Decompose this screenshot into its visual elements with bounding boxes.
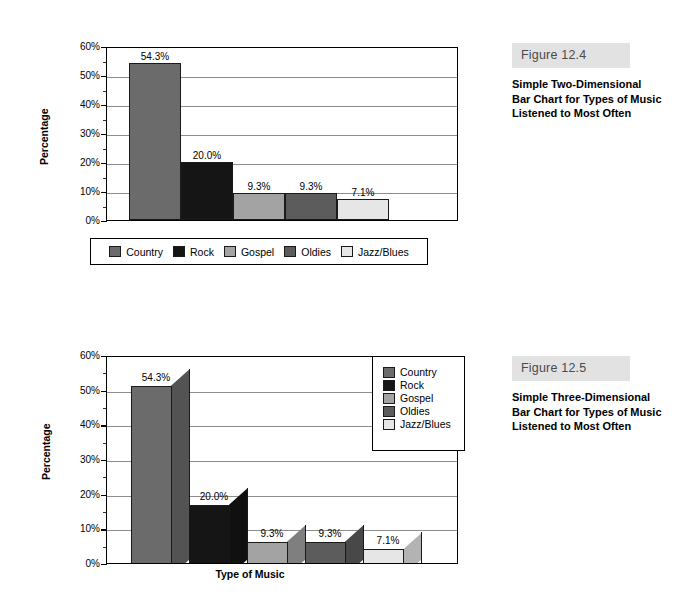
chart-12-4-legend-swatch-icon	[109, 246, 121, 257]
chart-12-5-legend-item[interactable]: Country	[383, 366, 452, 378]
chart-12-5-ytick-label: 10%	[62, 523, 100, 534]
chart-12-4-legend-label: Country	[126, 246, 163, 258]
chart-12-4-legend-swatch-icon	[173, 246, 185, 257]
chart-12-4-ytick-label: 10%	[62, 186, 100, 197]
chart-12-4-legend-item[interactable]: Country	[109, 246, 163, 258]
chart-12-5-legend-swatch-icon	[383, 419, 395, 430]
chart-12-4-bar	[285, 193, 337, 220]
chart-12-5-ytick-label: 40%	[62, 419, 100, 430]
chart-12-4-bar	[233, 193, 285, 220]
figure-12-5-caption: Simple Three-Dimensional Bar Chart for T…	[512, 390, 662, 434]
chart-12-4-legend-label: Oldies	[301, 246, 331, 258]
chart-12-4-bar-value-label: 7.1%	[333, 187, 393, 198]
chart-12-4-legend-item[interactable]: Rock	[173, 246, 214, 258]
chart-12-5-ytick-label: 20%	[62, 489, 100, 500]
chart-12-5-legend-item[interactable]: Oldies	[383, 405, 452, 417]
chart-12-5-legend: CountryRockGospelOldiesJazz/Blues	[372, 356, 465, 451]
chart-12-5-legend-label: Gospel	[400, 392, 433, 404]
chart-12-4-plot-area: 54.3%20.0%9.3%9.3%7.1%	[106, 47, 458, 221]
figure-12-5-caption-column: Figure 12.5 Simple Three-Dimensional Bar…	[512, 356, 662, 434]
chart-12-4-ytick-label: 50%	[62, 70, 100, 81]
chart-12-4-legend-swatch-icon	[341, 246, 353, 257]
chart-12-5-bar-3d-front	[247, 542, 288, 564]
chart-12-5-bar-3d-front	[189, 505, 230, 564]
chart-12-5-legend-swatch-icon	[383, 380, 395, 391]
chart-12-5-bar-3d-side-outline	[171, 369, 190, 564]
figure-12-5-block: Percentage 0%10%20%30%40%50%60% 54.3%20.…	[0, 315, 678, 604]
figure-12-4-block: Percentage 0%10%20%30%40%50%60% 54.3%20.…	[0, 0, 678, 300]
figure-12-4-caption: Simple Two-Dimensional Bar Chart for Typ…	[512, 77, 662, 121]
chart-12-5-bar-value-label: 9.3%	[243, 528, 301, 539]
chart-12-5-bar-value-label: 54.3%	[127, 372, 185, 383]
chart-12-4-legend-item[interactable]: Gospel	[224, 246, 274, 258]
chart-12-5-ytick-label: 30%	[62, 454, 100, 465]
chart-12-5-bar-value-label: 7.1%	[359, 535, 417, 546]
chart-12-4-bar	[129, 63, 181, 220]
chart-12-4-ytick-mark	[101, 221, 107, 222]
chart-12-5-legend-label: Oldies	[400, 405, 430, 417]
chart-12-4-bar-value-label: 9.3%	[281, 181, 341, 192]
figure-12-4-caption-column: Figure 12.4 Simple Two-Dimensional Bar C…	[512, 43, 662, 121]
chart-12-4-y-axis-label: Percentage	[38, 108, 50, 165]
chart-12-5-x-axis-label: Type of Music	[160, 568, 340, 580]
chart-12-4-ytick-label: 20%	[62, 157, 100, 168]
chart-12-5-legend-item[interactable]: Rock	[383, 379, 452, 391]
chart-12-4-ytick-label: 0%	[62, 215, 100, 226]
chart-12-4-legend-label: Jazz/Blues	[358, 246, 409, 258]
chart-12-5-ytick-mark	[101, 564, 107, 565]
chart-12-5-legend-label: Jazz/Blues	[400, 418, 451, 430]
chart-12-5-legend-swatch-icon	[383, 367, 395, 378]
figure-12-4-banner: Figure 12.4	[512, 43, 630, 68]
chart-12-4-legend-swatch-icon	[224, 246, 236, 257]
chart-12-4-bar	[181, 162, 233, 220]
chart-12-5-ytick-label: 50%	[62, 385, 100, 396]
chart-12-4-legend-label: Gospel	[241, 246, 274, 258]
chart-12-5-bar-value-label: 9.3%	[301, 528, 359, 539]
chart-12-5-bar-3d-front	[363, 549, 404, 564]
chart-12-4-legend-item[interactable]: Jazz/Blues	[341, 246, 409, 258]
chart-12-4-bar	[337, 199, 389, 220]
chart-12-5-ytick-label: 0%	[62, 558, 100, 569]
chart-12-5-ytick-label: 60%	[62, 350, 100, 361]
chart-12-5-legend-swatch-icon	[383, 393, 395, 404]
chart-12-5-bar-value-label: 20.0%	[185, 491, 243, 502]
chart-12-4-ytick-label: 30%	[62, 128, 100, 139]
chart-12-5-legend-item[interactable]: Gospel	[383, 392, 452, 404]
chart-12-4-legend-swatch-icon	[284, 246, 296, 257]
chart-12-4-bar-value-label: 20.0%	[177, 150, 237, 161]
chart-12-4-ytick-label: 60%	[62, 41, 100, 52]
chart-12-4-legend-label: Rock	[190, 246, 214, 258]
chart-12-5-legend-label: Rock	[400, 379, 424, 391]
chart-12-5-legend-label: Country	[400, 366, 437, 378]
chart-12-4-ytick-label: 40%	[62, 99, 100, 110]
figure-12-5-banner: Figure 12.5	[512, 356, 630, 381]
chart-12-5-bar-3d-front	[131, 386, 172, 564]
chart-12-5-legend-swatch-icon	[383, 406, 395, 417]
chart-12-4-bar-value-label: 9.3%	[229, 181, 289, 192]
chart-12-5-bar-3d-front	[305, 542, 346, 564]
chart-12-4-bar-value-label: 54.3%	[125, 51, 185, 62]
chart-12-5-legend-item[interactable]: Jazz/Blues	[383, 418, 452, 430]
chart-12-4-legend-item[interactable]: Oldies	[284, 246, 331, 258]
chart-12-4-legend: CountryRockGospelOldiesJazz/Blues	[90, 238, 428, 265]
chart-12-5-y-axis-label: Percentage	[40, 423, 52, 480]
